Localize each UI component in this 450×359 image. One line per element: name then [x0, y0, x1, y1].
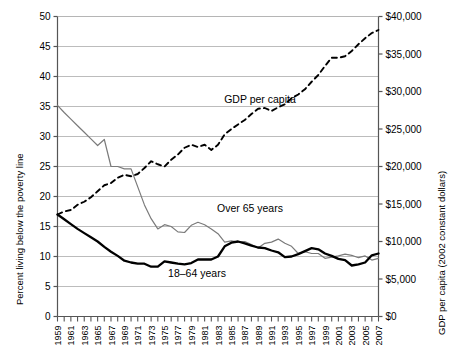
series-annotation-3: 18–64 years	[168, 267, 226, 279]
x-tick-label: 2007	[374, 326, 384, 346]
poverty-gdp-chart: 05101520253035404550$0$5,000$10,000$15,0…	[0, 0, 450, 359]
x-tick-label: 1965	[93, 326, 103, 346]
y-tick-label-right: $15,000	[386, 199, 423, 210]
series-line-2	[58, 215, 379, 267]
x-tick-label: 1975	[160, 326, 170, 346]
y-tick-label-right: $10,000	[386, 236, 423, 247]
x-tick-label: 1999	[321, 326, 331, 346]
x-tick-label: 1979	[187, 326, 197, 346]
x-tick-label: 1981	[200, 326, 210, 346]
y-tick-label-left: 0	[45, 311, 51, 322]
x-tick-label: 1959	[53, 326, 63, 346]
x-tick-label: 2003	[347, 326, 357, 346]
series-line-3	[58, 30, 379, 215]
x-tick-label: 1969	[120, 326, 130, 346]
y-tick-label-left: 30	[39, 131, 51, 142]
y-tick-label-left: 10	[39, 251, 51, 262]
x-tick-label: 1993	[280, 326, 290, 346]
x-tick-label: 1989	[254, 326, 264, 346]
y-tick-label-left: 25	[39, 161, 51, 172]
y-tick-label-right: $25,000	[386, 124, 423, 135]
y-axis-left-title: Percent living below the poverty line	[14, 153, 25, 305]
x-tick-label: 1961	[66, 326, 76, 346]
y-tick-label-left: 50	[39, 11, 51, 22]
x-tick-label: 1991	[267, 326, 277, 346]
y-tick-label-right: $35,000	[386, 49, 423, 60]
series-line-1	[58, 105, 379, 260]
x-tick-label: 1963	[80, 326, 90, 346]
y-tick-label-left: 40	[39, 71, 51, 82]
x-tick-label: 1971	[133, 326, 143, 346]
chart-canvas: 05101520253035404550$0$5,000$10,000$15,0…	[0, 0, 450, 359]
x-tick-label: 1995	[294, 326, 304, 346]
y-tick-label-left: 20	[39, 191, 51, 202]
y-tick-label-right: $0	[386, 311, 398, 322]
x-tick-label: 1983	[214, 326, 224, 346]
y-tick-label-right: $5,000	[386, 274, 417, 285]
y-tick-label-left: 5	[45, 281, 51, 292]
x-tick-label: 1997	[307, 326, 317, 346]
y-axis-right-title: GDP per capita (2002 constant dollars)	[436, 171, 447, 335]
y-tick-label-right: $40,000	[386, 11, 423, 22]
x-tick-label: 1973	[147, 326, 157, 346]
series-annotation-2: Over 65 years	[217, 202, 283, 214]
y-tick-label-left: 45	[39, 41, 51, 52]
y-tick-label-right: $30,000	[386, 86, 423, 97]
x-tick-label: 1987	[240, 326, 250, 346]
x-tick-label: 2005	[361, 326, 371, 346]
series-annotation-1: GDP per capita	[224, 93, 296, 105]
x-tick-label: 1967	[107, 326, 117, 346]
y-tick-label-left: 15	[39, 221, 51, 232]
y-tick-label-left: 35	[39, 101, 51, 112]
x-tick-label: 1985	[227, 326, 237, 346]
x-tick-label: 1977	[173, 326, 183, 346]
x-tick-label: 2001	[334, 326, 344, 346]
y-tick-label-right: $20,000	[386, 161, 423, 172]
